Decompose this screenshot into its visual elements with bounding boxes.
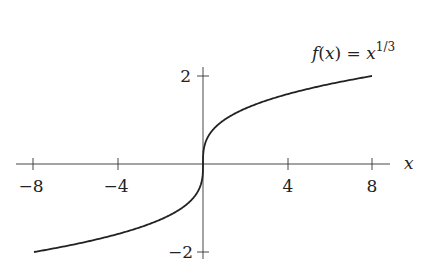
function-label: f(x) = x1/3 (310, 40, 395, 63)
y-tick-label: −2 (168, 242, 193, 262)
x-tick-label: −4 (103, 176, 128, 196)
y-tick-label: 2 (180, 66, 191, 86)
chart-canvas: −8 −4 4 8 2 −2 x f(x) = x1/3 (0, 0, 433, 274)
x-axis-label: x (404, 153, 414, 173)
x-tick-label: 4 (283, 176, 294, 196)
x-tick-label: −8 (18, 176, 43, 196)
x-tick-label: 8 (367, 176, 378, 196)
